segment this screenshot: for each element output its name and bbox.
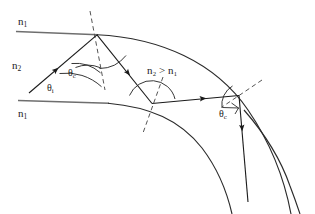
incident-ray — [29, 35, 97, 93]
n1-top-subscript: 1 — [24, 20, 28, 29]
reflected-ray-1 — [97, 35, 152, 104]
refractive-index-inequality-label: n₂ > n₁ — [147, 65, 177, 76]
outer-curved-interface — [244, 110, 300, 214]
n1-top-symbol: n — [18, 15, 24, 27]
exit-ray — [239, 96, 248, 203]
refractive-index-label-n2-left: n2 — [12, 60, 21, 71]
theta-c-right-subscript: c — [224, 113, 227, 121]
upper-straight-interface — [16, 32, 98, 35]
lower-straight-interface — [18, 101, 109, 104]
optics-diagram: n1 n2 n1 n₂ > n₁ θc θi θc — [0, 0, 315, 214]
upper-curved-interface — [97, 35, 291, 214]
n1-bottom-symbol: n — [18, 107, 24, 119]
reflected-ray-2 — [152, 96, 239, 104]
n2-left-subscript: 2 — [18, 64, 22, 73]
arc-theta-i — [60, 73, 102, 87]
n1-bottom-subscript: 1 — [24, 112, 28, 121]
normal-middle-dashed — [143, 77, 163, 133]
n2-left-symbol: n — [12, 59, 18, 71]
critical-angle-label-top: θc — [68, 68, 76, 78]
normal-right-dashed — [222, 80, 262, 107]
critical-angle-label-right: θc — [219, 109, 227, 119]
refractive-index-label-n1-bottom: n1 — [18, 108, 27, 119]
incidence-angle-label: θi — [47, 83, 54, 93]
lower-curved-interface — [108, 103, 232, 214]
arc-theta-c-top-inner — [76, 65, 101, 68]
theta-i-subscript: i — [52, 87, 54, 95]
normal-top-dashed — [90, 11, 105, 90]
diagram-canvas — [0, 0, 315, 214]
theta-c-top-subscript: c — [73, 72, 76, 80]
right-angle-marker — [232, 103, 239, 114]
right-angle-base-line — [223, 108, 240, 109]
refractive-index-label-n1-top: n1 — [18, 16, 27, 27]
